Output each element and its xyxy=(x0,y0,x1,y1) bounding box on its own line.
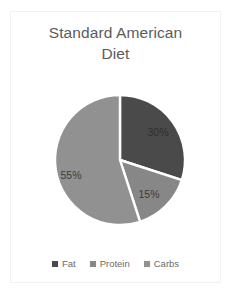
pie-label-carbs: 55% xyxy=(60,169,81,181)
legend-item-protein[interactable]: Protein xyxy=(90,258,130,269)
pie-label-fat: 30% xyxy=(147,126,168,138)
chart-legend: FatProteinCarbs xyxy=(0,258,231,269)
legend-label: Carbs xyxy=(154,258,179,269)
legend-label: Protein xyxy=(100,258,130,269)
legend-label: Fat xyxy=(62,258,76,269)
legend-item-fat[interactable]: Fat xyxy=(52,258,76,269)
legend-swatch-icon-fat xyxy=(52,261,58,267)
legend-item-carbs[interactable]: Carbs xyxy=(144,258,179,269)
legend-swatch-icon-protein xyxy=(90,261,96,267)
pie-chart-card: Standard American Diet FatProteinCarbs 3… xyxy=(0,0,231,303)
pie-label-protein: 15% xyxy=(138,188,159,200)
legend-swatch-icon-carbs xyxy=(144,261,150,267)
